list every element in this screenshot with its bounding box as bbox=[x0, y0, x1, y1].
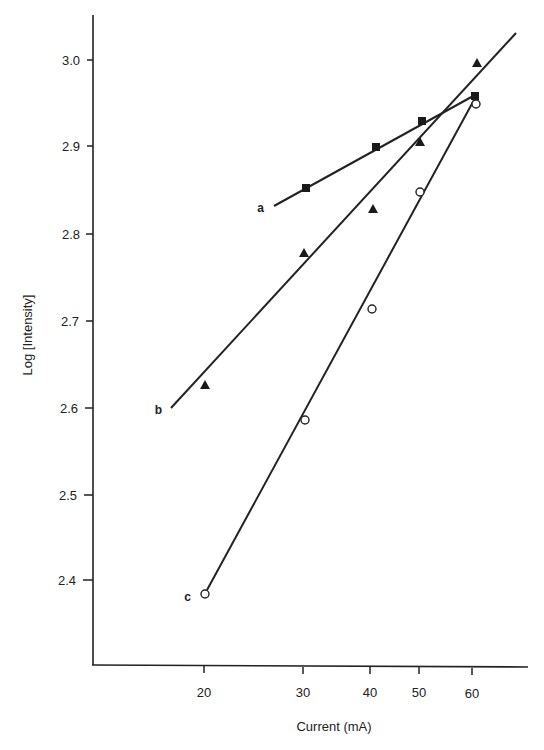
x-tick-label: 30 bbox=[296, 685, 310, 700]
y-tick-label: 2.6 bbox=[60, 401, 78, 416]
y-ticks bbox=[83, 60, 93, 580]
circle-marker bbox=[472, 100, 480, 108]
circle-marker bbox=[416, 188, 424, 196]
y-tick-label: 2.7 bbox=[61, 314, 79, 329]
fit-line-c bbox=[207, 100, 474, 590]
y-tick-label: 2.9 bbox=[62, 139, 80, 154]
circle-marker bbox=[201, 590, 209, 598]
triangle-marker bbox=[472, 58, 482, 67]
y-tick-labels: 3.0 2.9 2.8 2.7 2.6 2.5 2.4 bbox=[58, 53, 80, 588]
y-axis-title: Log [Intensity] bbox=[20, 295, 35, 376]
triangle-marker bbox=[299, 248, 309, 257]
x-tick-label: 60 bbox=[465, 686, 479, 701]
x-axis-title: Current (mA) bbox=[296, 719, 371, 734]
y-tick-label: 3.0 bbox=[62, 53, 80, 68]
y-tick-label: 2.8 bbox=[62, 227, 80, 242]
series-label-c: c bbox=[184, 590, 191, 604]
fit-line-b bbox=[171, 33, 516, 408]
x-tick-label: 20 bbox=[197, 685, 211, 700]
x-tick-label: 40 bbox=[363, 685, 377, 700]
chart: 3.0 2.9 2.8 2.7 2.6 2.5 2.4 20 30 40 50 … bbox=[0, 0, 544, 750]
circle-marker bbox=[368, 305, 376, 313]
x-axis bbox=[92, 665, 528, 667]
y-tick-label: 2.5 bbox=[59, 488, 77, 503]
y-tick-label: 2.4 bbox=[58, 573, 76, 588]
triangle-marker bbox=[200, 380, 210, 389]
x-tick-label: 50 bbox=[412, 685, 426, 700]
x-tick-labels: 20 30 40 50 60 bbox=[197, 685, 479, 701]
square-marker bbox=[418, 117, 426, 125]
triangle-marker bbox=[368, 204, 378, 213]
square-marker bbox=[372, 143, 380, 151]
circle-marker bbox=[301, 416, 309, 424]
square-marker bbox=[471, 92, 479, 100]
series-label-b: b bbox=[155, 403, 162, 417]
series-label-a: a bbox=[257, 201, 264, 215]
square-marker bbox=[302, 184, 310, 192]
